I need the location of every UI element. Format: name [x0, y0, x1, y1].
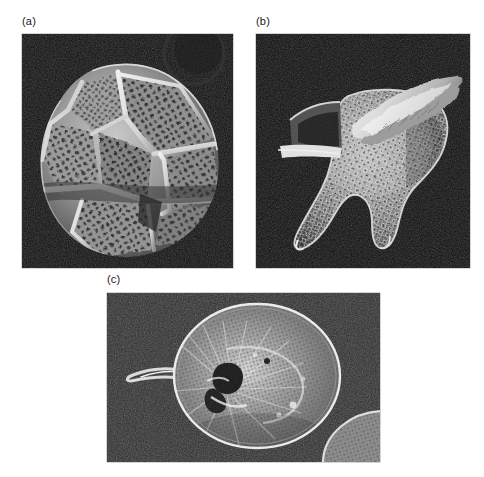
- panel-label-c: (c): [107, 274, 120, 285]
- figure-plate: (a): [0, 0, 484, 477]
- panel-label-a: (a): [22, 16, 36, 27]
- panel-a-micrograph: [22, 34, 233, 268]
- panel-label-b: (b): [256, 16, 270, 27]
- panel-c-micrograph: [107, 293, 380, 462]
- panel-b-micrograph: [256, 34, 470, 268]
